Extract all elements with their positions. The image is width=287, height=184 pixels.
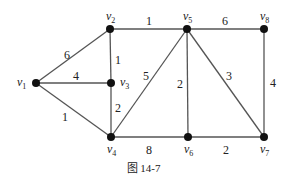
node-v3: [107, 79, 115, 87]
label-v8: v8: [260, 9, 269, 25]
node-v6: [184, 133, 192, 141]
weight-v6-v7: 2: [223, 143, 229, 157]
node-v7: [260, 133, 268, 141]
weight-v2-v3: 1: [115, 53, 121, 67]
weight-v1-v2: 6: [64, 48, 70, 62]
weight-v1-v3: 4: [73, 69, 79, 83]
label-v5: v5: [183, 9, 192, 25]
edge-v5-v6: [187, 29, 188, 137]
node-v1: [32, 79, 40, 87]
edge-v1-v4: [36, 83, 111, 137]
weight-v4-v6: 8: [146, 143, 152, 157]
edge-v2-v3: [110, 29, 111, 83]
weight-v1-v4: 1: [62, 110, 68, 124]
node-v5: [183, 25, 191, 33]
weighted-graph: 6 4 1 1 2 1 5 8 2 3 6 2 4 v1 v2 v3 v4 v5…: [0, 0, 287, 184]
weight-v8-v7: 4: [270, 76, 276, 90]
weight-v2-v5: 1: [146, 14, 152, 28]
label-v2: v2: [106, 9, 115, 25]
label-v1: v1: [17, 75, 26, 91]
node-v2: [106, 25, 114, 33]
weight-v5-v7: 3: [226, 69, 232, 83]
edge-weights: 6 4 1 1 2 1 5 8 2 3 6 2 4: [62, 14, 276, 157]
node-v4: [107, 133, 115, 141]
weight-v5-v6: 2: [177, 77, 183, 91]
label-v4: v4: [107, 142, 116, 158]
label-v6: v6: [184, 142, 193, 158]
edges: [36, 29, 264, 137]
weight-v5-v8: 6: [222, 14, 228, 28]
label-v7: v7: [260, 142, 269, 158]
label-v3: v3: [120, 75, 129, 91]
figure-caption: 图 14-7: [0, 159, 287, 175]
edge-v5-v7: [187, 29, 264, 137]
node-v8: [260, 25, 268, 33]
weight-v4-v5: 5: [143, 69, 149, 83]
weight-v3-v4: 2: [115, 101, 121, 115]
